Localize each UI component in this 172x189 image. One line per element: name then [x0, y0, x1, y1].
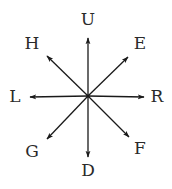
label-up-left: H [22, 35, 42, 53]
arrow-up-left [47, 56, 88, 96]
label-up: U [78, 11, 98, 29]
arrow-up-right [88, 57, 128, 96]
arrow-right [88, 96, 144, 97]
arrow-down-left [47, 96, 88, 139]
arrow-left [30, 96, 88, 97]
arrow-down-right [88, 96, 129, 137]
label-left: L [5, 88, 25, 106]
center-point [86, 94, 89, 97]
arrows-group [30, 38, 144, 157]
label-down-right: F [130, 140, 150, 158]
label-up-right: E [130, 35, 150, 53]
label-down: D [78, 162, 98, 180]
label-down-left: G [22, 143, 42, 161]
label-right: R [147, 88, 167, 106]
